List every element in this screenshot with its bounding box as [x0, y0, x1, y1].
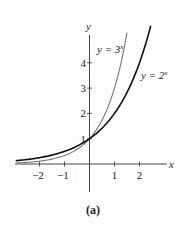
- x-tick-label: 1: [112, 169, 118, 181]
- label-2x-exp: x: [163, 69, 168, 77]
- x-tick-label: −2: [32, 169, 44, 181]
- y-tick-label: 4: [81, 57, 87, 69]
- label-3x-base: y = 3: [96, 43, 121, 55]
- exponential-chart: −2−1121234 x y y = 3x y = 2x: [0, 0, 186, 230]
- x-tick-label: −1: [57, 169, 69, 181]
- label-2x-base: y = 2: [140, 69, 165, 81]
- y-tick-label: 2: [81, 107, 87, 119]
- series-label-3x: y = 3x: [96, 43, 124, 55]
- series-label-2x: y = 2x: [140, 69, 168, 81]
- x-axis-label: x: [168, 158, 174, 170]
- ticks: −2−1121234: [32, 57, 142, 181]
- y-axis-label: y: [85, 20, 91, 32]
- y-tick-label: 3: [81, 82, 87, 94]
- x-tick-label: 2: [137, 169, 143, 181]
- figure-caption: (a): [0, 203, 186, 218]
- curves: [16, 26, 151, 163]
